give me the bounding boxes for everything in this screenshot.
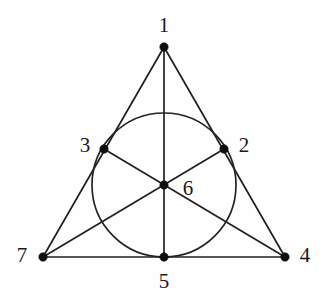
vertex-label-7: 7 [17,245,28,266]
vertex-dot-4 [281,253,289,261]
vertex-label-2: 2 [239,135,250,156]
vertex-label-1: 1 [159,15,170,36]
vertex-dot-7 [39,253,47,261]
vertex-label-5: 5 [159,271,170,292]
line-3-6-4 [104,149,285,257]
vertex-dot-6 [160,181,168,189]
vertex-label-6: 6 [183,178,194,199]
vertex-dot-5 [160,253,168,261]
fano-plane-canvas [0,0,326,302]
fano-plane-figure: 1234567 [0,0,326,302]
vertex-dot-3 [100,145,108,153]
vertex-dot-1 [160,43,168,51]
vertex-label-4: 4 [300,245,311,266]
vertex-label-3: 3 [80,135,91,156]
vertex-dot-2 [220,145,228,153]
line-2-6-7 [43,149,224,257]
